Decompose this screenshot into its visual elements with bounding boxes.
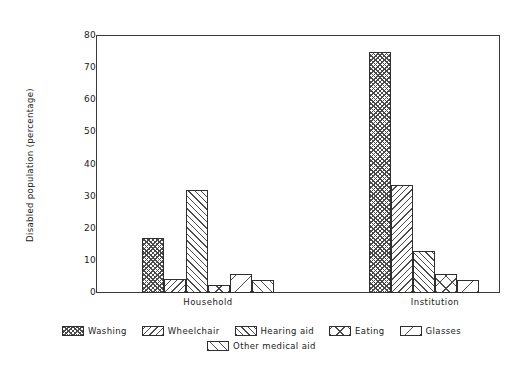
legend-label: Other medical aid <box>233 341 316 351</box>
legend-swatch <box>400 326 422 336</box>
legend-swatch <box>329 326 351 336</box>
legend-label: Washing <box>88 326 127 336</box>
bar <box>369 52 391 293</box>
bar <box>391 185 413 293</box>
legend-label: Hearing aid <box>261 326 315 336</box>
y-tick-label: 40 <box>62 159 96 169</box>
bar <box>252 280 274 293</box>
legend-swatch <box>207 341 229 351</box>
y-tick-label: 30 <box>62 191 96 201</box>
legend-item: Eating <box>329 326 384 336</box>
y-tick-label: 0 <box>62 287 96 297</box>
legend-swatch <box>142 326 164 336</box>
y-tick-label: 70 <box>62 62 96 72</box>
y-tick-label: 60 <box>62 94 96 104</box>
bar <box>164 279 186 293</box>
legend-row-1: WashingWheelchairHearing aidEatingGlasse… <box>0 326 523 336</box>
y-tick-label: 10 <box>62 255 96 265</box>
bar <box>186 190 208 293</box>
bars-layer <box>97 36 499 293</box>
legend-item: Glasses <box>400 326 461 336</box>
bar <box>208 285 230 293</box>
y-tick-label: 80 <box>62 30 96 40</box>
y-tick-label: 50 <box>62 126 96 136</box>
x-tick-label: Household <box>183 297 232 307</box>
bar-chart-figure: Disabled population (percentage) 0102030… <box>0 0 523 368</box>
y-axis-title: Disabled population (percentage) <box>25 65 35 265</box>
legend-swatch <box>62 326 84 336</box>
bar <box>142 238 164 293</box>
legend-label: Wheelchair <box>168 326 220 336</box>
chart-legend: WashingWheelchairHearing aidEatingGlasse… <box>0 326 523 356</box>
bar <box>435 274 457 293</box>
legend-item: Wheelchair <box>142 326 220 336</box>
y-axis-ticks: 01020304050607080 <box>54 35 96 293</box>
y-tick-label: 20 <box>62 223 96 233</box>
bar <box>230 274 252 293</box>
legend-item: Washing <box>62 326 127 336</box>
legend-item: Other medical aid <box>207 341 316 351</box>
bar <box>413 251 435 293</box>
legend-label: Eating <box>355 326 384 336</box>
legend-label: Glasses <box>426 326 461 336</box>
legend-swatch <box>235 326 257 336</box>
x-tick-label: Institution <box>411 297 460 307</box>
bar <box>457 280 479 293</box>
legend-item: Hearing aid <box>235 326 315 336</box>
legend-row-2: Other medical aid <box>0 341 523 351</box>
